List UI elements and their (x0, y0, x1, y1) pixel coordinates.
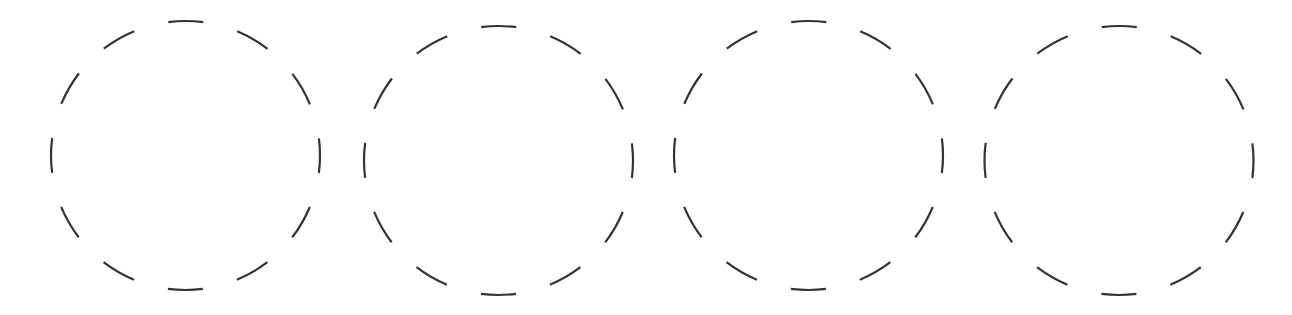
dashed-circles-diagram (0, 0, 1292, 315)
dashed-circle-3 (674, 21, 943, 290)
dashed-circle-2 (364, 26, 633, 295)
dashed-circle-4 (985, 26, 1254, 295)
dashed-circle-1 (51, 21, 320, 290)
circles-group (51, 21, 1254, 295)
